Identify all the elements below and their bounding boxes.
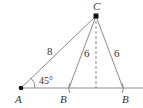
side-cb1 bbox=[69, 16, 96, 88]
label-b2: B bbox=[122, 93, 129, 105]
point-a bbox=[19, 86, 24, 91]
triangle-diagram: C A B B 8 6 6 45° bbox=[0, 0, 143, 108]
label-c: C bbox=[93, 0, 101, 12]
side-cb1-length: 6 bbox=[84, 47, 90, 59]
side-cb2-length: 6 bbox=[114, 47, 120, 59]
point-c bbox=[94, 14, 99, 19]
label-b1: B bbox=[60, 93, 67, 105]
label-a: A bbox=[14, 93, 22, 105]
side-ac-length: 8 bbox=[47, 45, 53, 57]
angle-a-label: 45° bbox=[39, 75, 53, 86]
angle-arc-a bbox=[31, 78, 35, 88]
